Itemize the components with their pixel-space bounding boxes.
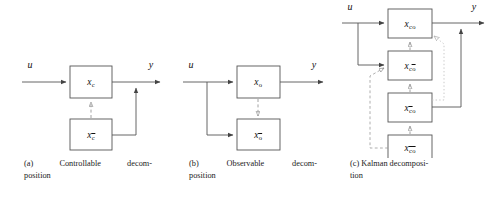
signal-label-y-c: y (472, 1, 476, 12)
signal-label-y-b: y (312, 59, 316, 70)
panel-kalman-decomposition: u y xco xco xco xco (c) Kalman decomposi… (330, 0, 495, 204)
diagram-b-svg (165, 0, 335, 158)
block-xco-label: xco (405, 19, 416, 29)
arrow-xcbaro-to-y (432, 29, 461, 107)
signal-label-u-b: u (189, 59, 194, 70)
block-xcbar-label: xc (87, 130, 94, 140)
decomposition-figure: u y xc xc (a) Controllable decom- positi… (0, 0, 495, 204)
panel-observable-decomposition: u y xo xo (b) Observable decom- position (165, 0, 335, 204)
caption-c-line2: tion (350, 170, 483, 182)
caption-b-line1: (b) Observable decom- (189, 158, 317, 170)
dashed-xcbarobar-to-xcobar (370, 68, 388, 148)
caption-b-line2: position (189, 170, 317, 182)
caption-b: (b) Observable decom- position (165, 158, 335, 181)
caption-a-line2: position (24, 170, 152, 182)
block-xo-label: xo (254, 77, 262, 87)
caption-a-line1: (a) Controllable decom- (24, 158, 152, 170)
signal-label-u-a: u (28, 59, 33, 70)
block-xobar-label: xo (254, 130, 262, 140)
diagram-a-svg (0, 0, 170, 158)
block-xc-label: xc (87, 77, 94, 87)
diagram-a: u y xc xc (0, 0, 170, 158)
diagram-b: u y xo xo (165, 0, 335, 158)
arrow-u-to-xobar (207, 82, 233, 135)
caption-a: (a) Controllable decom- position (0, 158, 170, 181)
caption-c-line1: (c) Kalman decomposi- (350, 158, 483, 170)
block-xcbaro-label: xco (405, 103, 416, 113)
arrow-u-to-xcobar (358, 23, 384, 65)
caption-c: (c) Kalman decomposi- tion (330, 158, 495, 181)
arrow-xcbar-to-y (112, 88, 136, 135)
dotted-xcbaro-to-xco (432, 36, 444, 100)
signal-label-y-a: y (149, 59, 153, 70)
block-xcobar-label: xco (405, 61, 416, 71)
block-xcbarobar-label: xco (405, 143, 416, 153)
diagram-c: u y xco xco xco xco (330, 0, 495, 158)
panel-controllable-decomposition: u y xc xc (a) Controllable decom- positi… (0, 0, 170, 204)
signal-label-u-c: u (348, 1, 353, 12)
